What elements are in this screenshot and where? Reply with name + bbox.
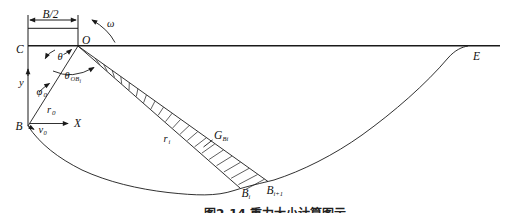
phi0-label: φ 0: [37, 86, 48, 100]
figure-canvas: B/2 C O B E y X ω θ θ OB i φ 0 r 0 r i v…: [0, 0, 509, 213]
v0-label: v 0: [39, 124, 48, 136]
theta-obi-angle-arrow: [53, 68, 94, 75]
gbi-leader-line: [204, 140, 213, 147]
svg-text:B: B: [267, 184, 274, 196]
gbi-weight-label: G Bi: [214, 129, 228, 143]
figure-caption: 图2-14 重力大小计算图示: [175, 204, 375, 213]
x-axis-label: X: [73, 117, 82, 129]
svg-text:i+1: i+1: [274, 190, 283, 197]
theta-angle-arrow-right: [64, 50, 72, 55]
svg-text:OB: OB: [71, 75, 80, 82]
svg-text:0: 0: [52, 109, 56, 117]
bi1-label: B i+1: [267, 184, 283, 198]
radius-ri-line: [78, 46, 240, 188]
svg-text:φ: φ: [37, 86, 43, 97]
svg-text:Bi: Bi: [223, 135, 229, 142]
svg-text:θ: θ: [65, 70, 70, 81]
bi-label: B i: [242, 187, 251, 201]
dimension-label: B/2: [43, 8, 59, 20]
point-label-c: C: [16, 43, 24, 55]
theta-obi-label: θ OB i: [65, 70, 82, 84]
figure: B/2 C O B E y X ω θ θ OB i φ 0 r 0 r i v…: [0, 0, 509, 213]
slice-hatching: [95, 58, 264, 189]
point-label-b: B: [16, 120, 23, 132]
svg-text:B: B: [242, 187, 249, 199]
radius-ri1-line: [78, 46, 268, 182]
svg-text:0: 0: [44, 129, 48, 136]
point-label-e: E: [472, 50, 480, 62]
log-spiral-curve: [28, 46, 468, 195]
svg-text:0: 0: [44, 91, 48, 99]
svg-text:i: i: [169, 138, 171, 145]
theta-label: θ: [58, 51, 63, 62]
omega-label: ω: [107, 18, 114, 29]
y-axis-label: y: [18, 77, 24, 88]
ri-label: r i: [164, 133, 171, 145]
point-label-o: O: [82, 34, 91, 46]
r0-label: r 0: [47, 104, 56, 118]
svg-text:i: i: [80, 78, 82, 84]
svg-text:i: i: [249, 193, 251, 200]
theta-angle-arrow-left: [45, 50, 55, 59]
